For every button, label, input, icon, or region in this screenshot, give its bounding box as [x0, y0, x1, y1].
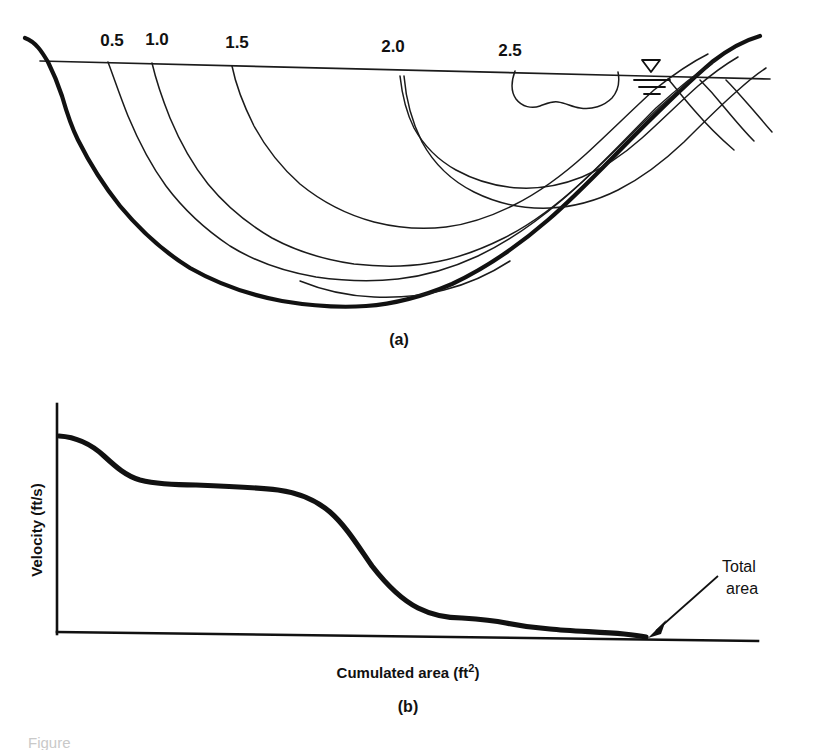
contour-label-1-0: 1.0 [145, 30, 169, 49]
x-axis-label-tail: ) [474, 664, 479, 681]
x-axis-label-base: Cumulated area (ft [337, 664, 469, 681]
contour-line-right-bank-3 [726, 80, 772, 132]
contour-label-2-5: 2.5 [498, 41, 522, 60]
contour-label-2-0: 2.0 [381, 37, 405, 56]
velocity-area-curve [59, 436, 646, 637]
y-axis-label: Velocity (ft/s) [28, 483, 45, 576]
total-area-annotation-line1: Total [722, 558, 756, 575]
panel-a-label: (a) [389, 331, 409, 348]
contour-label-1-5: 1.5 [225, 33, 249, 52]
contour-line-right-bank-2 [700, 80, 754, 141]
panel-a-cross-section: 0.5 1.0 1.5 2.0 2.5 (a) [25, 30, 772, 348]
figure-canvas: 0.5 1.0 1.5 2.0 2.5 (a) Total area [0, 0, 815, 750]
water-surface-line [40, 61, 770, 79]
contour-line-1-0 [152, 60, 716, 266]
figure-caption-partial: Figure [28, 734, 71, 750]
total-area-annotation-line2: area [726, 580, 758, 597]
figure-root: 0.5 1.0 1.5 2.0 2.5 (a) Total area [0, 0, 815, 750]
contour-line-2-5-lobe [512, 71, 619, 109]
panel-b-velocity-area-chart: Total area Velocity (ft/s) Cumulated are… [28, 404, 758, 715]
total-area-arrow [648, 576, 718, 638]
x-axis-label: Cumulated area (ft2) [337, 662, 480, 681]
panel-b-label: (b) [398, 698, 418, 715]
contour-label-0-5: 0.5 [100, 31, 124, 50]
